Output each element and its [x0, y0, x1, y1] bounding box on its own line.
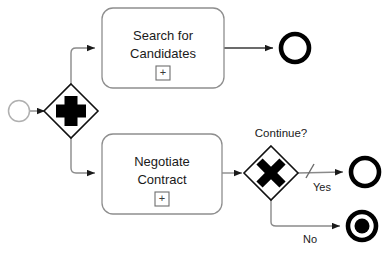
end-event-yes-circle: [351, 158, 379, 186]
end-event-yes[interactable]: [351, 158, 379, 186]
flow-no-line: [271, 200, 340, 226]
flow-gateway-to-search-line: [71, 48, 95, 84]
start-event[interactable]: [9, 101, 30, 122]
flow-gateway-to-negotiate[interactable]: [71, 138, 95, 173]
task-search-plus-icon: +: [160, 66, 166, 78]
end-event-terminate[interactable]: [348, 212, 376, 240]
end-event-top-circle: [281, 34, 309, 62]
end-event-top[interactable]: [281, 34, 309, 62]
task-negotiate-label-line2: Contract: [137, 172, 187, 187]
parallel-gateway[interactable]: [44, 84, 98, 138]
terminate-dot-icon: [355, 219, 370, 234]
exclusive-gateway-continue[interactable]: Continue?: [244, 127, 307, 200]
task-search-label-line1: Search for: [133, 28, 194, 43]
flow-yes[interactable]: Yes: [298, 164, 343, 193]
flow-no-label: No: [303, 233, 317, 245]
task-negotiate-label-line1: Negotiate: [134, 154, 190, 169]
task-negotiate-contract[interactable]: Negotiate Contract +: [102, 134, 222, 214]
flow-gateway-to-search[interactable]: [71, 48, 95, 84]
default-flow-slash-icon: [306, 164, 314, 178]
start-event-circle: [9, 101, 30, 122]
flow-yes-label: Yes: [313, 181, 331, 193]
task-negotiate-plus-icon: +: [159, 192, 165, 204]
flow-gateway-to-negotiate-line: [71, 138, 95, 173]
flow-no[interactable]: No: [271, 200, 340, 245]
exclusive-gateway-label: Continue?: [255, 127, 307, 139]
task-search-label-line2: Candidates: [130, 46, 196, 61]
bpmn-canvas-svg: Yes No Search for Candidates + Negotiate: [0, 0, 387, 254]
bpmn-diagram-canvas: Yes No Search for Candidates + Negotiate: [0, 0, 387, 254]
task-search-for-candidates[interactable]: Search for Candidates +: [102, 8, 224, 88]
flow-yes-line: [298, 172, 343, 173]
